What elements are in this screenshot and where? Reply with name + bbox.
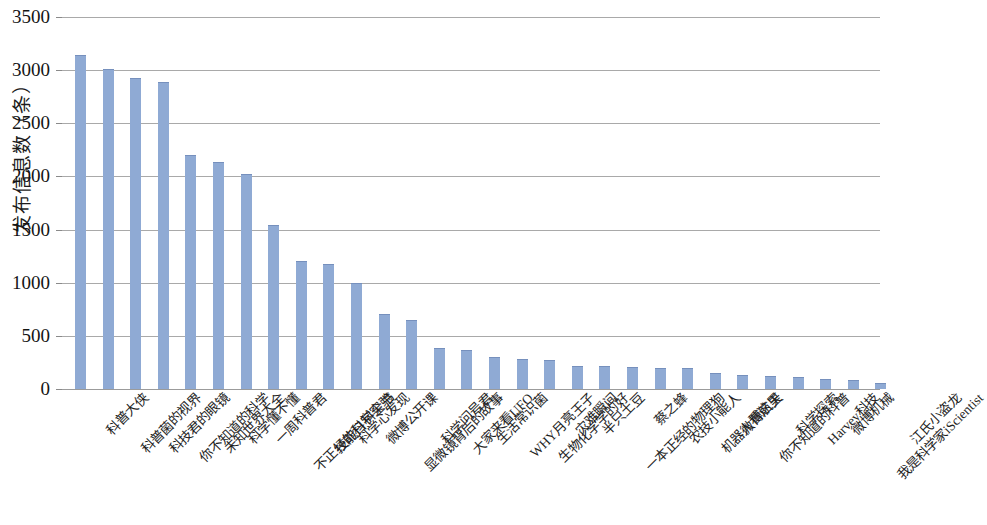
x-axis-labels: 科普大侠科普菌的视界科技君的眼镜你不知道的科学未知世界大全科学懂不懂一周科普君不… (62, 391, 884, 525)
bar (710, 373, 721, 389)
bar (351, 283, 362, 389)
bar (489, 357, 500, 389)
bar (158, 82, 169, 389)
bar (461, 350, 472, 389)
bar (848, 380, 859, 389)
bar (323, 264, 334, 389)
bar (75, 55, 86, 389)
y-tick-label: 3500 (0, 7, 50, 26)
x-axis-label: 微博航天 (739, 391, 786, 438)
bar (572, 366, 583, 389)
y-tick-label: 500 (0, 326, 50, 345)
bar (682, 368, 693, 389)
bar (737, 375, 748, 389)
y-tick-label: 2500 (0, 113, 50, 132)
bar (434, 348, 445, 389)
y-tick-label: 3000 (0, 60, 50, 79)
y-tick-mark (56, 389, 62, 390)
bar (185, 155, 196, 389)
y-tick-label: 1000 (0, 273, 50, 292)
bar (793, 377, 804, 389)
bar (544, 360, 555, 389)
bar (655, 368, 666, 389)
bar (103, 69, 114, 389)
bar (765, 376, 776, 389)
bar (599, 366, 610, 389)
y-axis-title: 发布信息数（条） (7, 0, 34, 314)
y-tick-label: 2000 (0, 166, 50, 185)
bar (379, 314, 390, 389)
bar (820, 379, 831, 389)
gridline (62, 389, 880, 390)
bars-layer (62, 17, 880, 389)
bar (406, 320, 417, 389)
bar (627, 367, 638, 389)
bar (130, 78, 141, 389)
bar (517, 359, 528, 389)
bar (213, 162, 224, 389)
bar (296, 261, 307, 389)
plot-area: 0500100015002000250030003500 (62, 17, 880, 389)
y-tick-label: 1500 (0, 220, 50, 239)
bar (241, 174, 252, 389)
y-tick-label: 0 (0, 379, 50, 398)
bar (875, 383, 886, 389)
bar (268, 225, 279, 389)
x-axis-label: 科普大侠 (104, 391, 151, 438)
